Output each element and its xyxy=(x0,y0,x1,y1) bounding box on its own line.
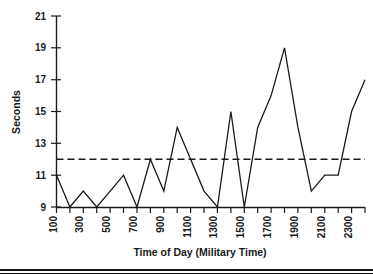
x-tick-label: 500 xyxy=(101,216,112,233)
y-tick-label: 15 xyxy=(35,106,47,117)
y-axis-title: Seconds xyxy=(10,90,22,134)
x-tick-label: 1500 xyxy=(235,216,246,239)
y-tick-label: 9 xyxy=(40,202,46,213)
x-tick-label: 1300 xyxy=(208,216,219,239)
x-tick-label: 300 xyxy=(74,216,85,233)
footer-rule-top xyxy=(0,269,373,271)
x-tick-label: 100 xyxy=(48,216,59,233)
x-tick-label: 700 xyxy=(128,216,139,233)
x-tick-label: 1900 xyxy=(289,216,300,239)
line-chart-figure: 21 19 17 15 13 11 9 Seconds xyxy=(0,0,373,274)
x-axis-title: Time of Day (Military Time) xyxy=(133,246,266,258)
chart-svg: 21 19 17 15 13 11 9 Seconds xyxy=(0,0,373,274)
y-tick-label: 11 xyxy=(35,170,46,181)
x-tick-label: 900 xyxy=(155,216,166,233)
y-tick-label: 13 xyxy=(35,138,47,149)
y-tick-label: 19 xyxy=(35,42,47,53)
x-tick-label: 1100 xyxy=(182,216,193,238)
x-tick-label: 2100 xyxy=(316,216,327,239)
x-tick-label: 1700 xyxy=(262,216,273,239)
x-tick-label: 2300 xyxy=(343,216,354,239)
y-tick-label: 17 xyxy=(35,74,47,85)
y-tick-label: 21 xyxy=(35,11,47,22)
